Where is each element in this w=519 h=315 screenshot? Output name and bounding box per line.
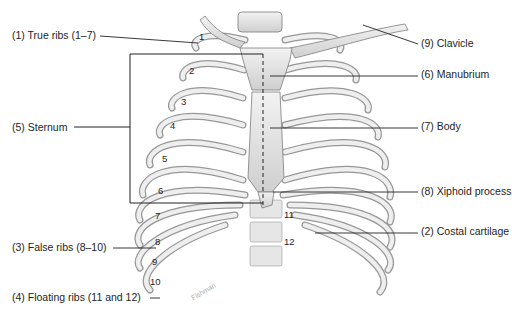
label-false-ribs: (3) False ribs (8–10) — [12, 241, 107, 253]
rib-number-12: 12 — [284, 236, 295, 247]
rib-number-1: 1 — [199, 31, 204, 42]
rib-number-11: 11 — [284, 209, 294, 220]
label-sternum: (5) Sternum — [12, 121, 67, 133]
rib-number-2: 2 — [189, 65, 194, 76]
rib-number-5: 5 — [162, 153, 167, 164]
rib-number-8: 8 — [155, 236, 160, 247]
right-ribs-highlight — [283, 36, 392, 292]
label-floating-ribs: (4) Floating ribs (11 and 12) — [12, 291, 141, 303]
vertebral-column — [250, 200, 282, 266]
leader-true-ribs — [100, 36, 198, 43]
rib-number-3: 3 — [181, 96, 186, 107]
right-ribs — [283, 36, 392, 292]
sternal-body — [248, 92, 284, 192]
label-body: (7) Body — [421, 120, 461, 132]
rib-number-6: 6 — [158, 185, 163, 196]
label-xiphoid-process: (8) Xiphoid process — [421, 185, 511, 197]
rib-number-7: 7 — [155, 210, 160, 221]
label-costal-cartilage: (2) Costal cartilage — [421, 225, 509, 237]
label-clavicle: (9) Clavicle — [421, 37, 474, 49]
rib-number-4: 4 — [170, 120, 175, 131]
label-manubrium: (6) Manubrium — [421, 68, 489, 80]
rib-number-9: 9 — [152, 256, 157, 267]
label-true-ribs: (1) True ribs (1–7) — [12, 29, 96, 41]
rib-number-10: 10 — [150, 276, 161, 287]
